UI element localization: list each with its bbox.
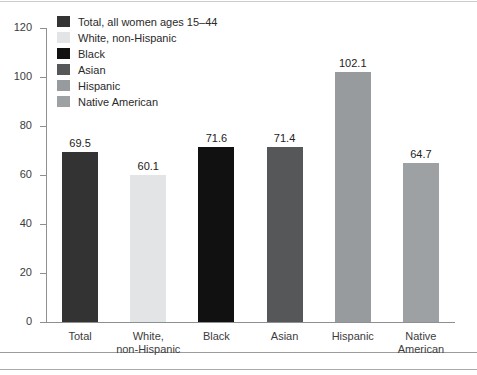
legend-item: Native American xyxy=(57,94,217,109)
legend-label: Native American xyxy=(78,96,158,108)
bar-value-label: 102.1 xyxy=(323,57,383,69)
x-axis-label: Hispanic xyxy=(319,330,387,343)
legend-item: Total, all women ages 15–44 xyxy=(57,14,217,29)
y-axis-tick xyxy=(40,322,46,323)
y-axis-tick xyxy=(40,224,46,225)
legend-swatch xyxy=(57,96,70,107)
legend-label: Asian xyxy=(78,64,106,76)
x-axis-label-line: Asian xyxy=(251,330,319,343)
y-axis-tick-label: 60 xyxy=(0,169,32,180)
y-axis-tick-label: 0 xyxy=(0,316,32,327)
x-axis-label: Total xyxy=(46,330,114,343)
x-axis-label-line: Native xyxy=(387,330,455,343)
chart-legend: Total, all women ages 15–44White, non-Hi… xyxy=(57,14,217,110)
legend-label: Total, all women ages 15–44 xyxy=(78,16,217,28)
legend-label: Black xyxy=(78,48,105,60)
legend-item: Hispanic xyxy=(57,78,217,93)
legend-swatch xyxy=(57,48,70,59)
y-axis-tick-label: 100 xyxy=(0,71,32,82)
x-axis-label: Black xyxy=(182,330,250,343)
x-axis-label: Asian xyxy=(251,330,319,343)
x-axis-label-line: Total xyxy=(46,330,114,343)
bar xyxy=(403,163,439,322)
x-axis-label-line: Black xyxy=(182,330,250,343)
x-axis-label-line: American xyxy=(387,343,455,356)
y-axis-tick-label: 20 xyxy=(0,267,32,278)
y-axis-line xyxy=(46,28,47,323)
y-axis-tick-label: 80 xyxy=(0,120,32,131)
y-axis-tick-label: 40 xyxy=(0,218,32,229)
y-axis-tick xyxy=(40,175,46,176)
bar-value-label: 71.6 xyxy=(186,132,246,144)
legend-item: White, non-Hispanic xyxy=(57,30,217,45)
legend-swatch xyxy=(57,80,70,91)
bar xyxy=(267,147,303,322)
bar xyxy=(62,152,98,322)
y-axis-tick xyxy=(40,273,46,274)
legend-item: Black xyxy=(57,46,217,61)
legend-swatch xyxy=(57,64,70,75)
bar-value-label: 69.5 xyxy=(50,137,110,149)
x-axis-label-line: White, xyxy=(114,330,182,343)
x-axis-label: White,non-Hispanic xyxy=(114,330,182,356)
y-axis-tick xyxy=(40,77,46,78)
y-axis-tick xyxy=(40,28,46,29)
legend-item: Asian xyxy=(57,62,217,77)
figure-top-rule xyxy=(0,1,477,2)
x-axis-line xyxy=(46,322,455,323)
legend-label: Hispanic xyxy=(78,80,120,92)
legend-label: White, non-Hispanic xyxy=(78,32,176,44)
x-axis-label-line: non-Hispanic xyxy=(114,343,182,356)
bar xyxy=(198,147,234,322)
bar-value-label: 64.7 xyxy=(391,148,451,160)
legend-swatch xyxy=(57,32,70,43)
bar xyxy=(130,175,166,322)
x-axis-label: NativeAmerican xyxy=(387,330,455,356)
bar-value-label: 60.1 xyxy=(118,160,178,172)
figure: 020406080100120 69.560.171.671.4102.164.… xyxy=(0,0,477,375)
figure-bottom-rule-lower xyxy=(0,369,477,370)
bar xyxy=(335,72,371,322)
bar-value-label: 71.4 xyxy=(255,132,315,144)
y-axis-tick-label: 120 xyxy=(0,22,32,33)
x-axis-label-line: Hispanic xyxy=(319,330,387,343)
legend-swatch xyxy=(57,16,70,27)
y-axis-tick xyxy=(40,126,46,127)
